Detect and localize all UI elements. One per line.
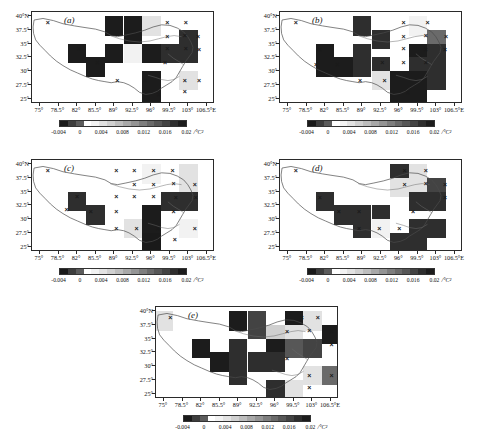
y-axis-tick-label: 35° — [1, 187, 29, 194]
colorbar-e: -0.00400.0040.0080.0120.0160.02/°C² — [183, 415, 311, 435]
significance-marker: × — [156, 224, 160, 231]
significance-marker: × — [193, 224, 197, 231]
x-axis-tick-label: 78.5° — [51, 254, 64, 261]
y-axis-tick-mark — [28, 43, 31, 44]
colorbar-tick-label: -0.004 — [299, 129, 313, 135]
colorbar-tick-label: 0.016 — [283, 424, 296, 430]
heatmap-cell — [142, 16, 161, 35]
colorbar-tick-label: 0.012 — [138, 129, 151, 135]
x-axis-tick-mark — [150, 103, 151, 106]
y-axis-tick-label: 27.5° — [1, 80, 29, 87]
y-axis-tick-label: 32.5° — [1, 201, 29, 208]
significance-marker: × — [95, 59, 99, 66]
y-axis-tick-label: 25° — [125, 389, 153, 396]
colorbar-tick-label: 0.016 — [159, 277, 172, 283]
y-axis-tick-mark — [28, 204, 31, 205]
significance-marker: × — [196, 33, 200, 40]
significance-marker: × — [307, 383, 311, 390]
x-axis-tick-label: 85.5° — [88, 254, 101, 261]
significance-marker: × — [173, 235, 177, 242]
x-axis-tick-label: 82° — [196, 401, 205, 408]
x-axis-tick-mark — [95, 103, 96, 106]
colorbar-gradient — [183, 415, 311, 422]
significance-marker: × — [184, 45, 188, 52]
significance-marker: × — [197, 77, 201, 84]
significance-marker: × — [183, 87, 187, 94]
x-axis-tick-label: 92.5° — [125, 106, 138, 113]
x-axis-tick-label: 85.5° — [336, 254, 349, 261]
x-axis-tick-mark — [306, 103, 307, 106]
y-axis-tick-mark — [152, 324, 155, 325]
heatmap-cell — [316, 57, 335, 76]
x-axis-tick-label: 99.5° — [286, 401, 299, 408]
y-axis-tick-mark — [276, 98, 279, 99]
y-axis-tick-label: 27.5° — [125, 375, 153, 382]
x-axis-tick-label: 103° — [430, 106, 442, 113]
heatmap-cell — [427, 71, 446, 90]
x-axis-tick-label: 75° — [35, 106, 44, 113]
colorbar-tick-label: -0.004 — [299, 277, 313, 283]
significance-marker: × — [357, 224, 361, 231]
significance-marker: × — [335, 61, 339, 68]
colorbar-tick-label: 0.012 — [386, 129, 399, 135]
x-axis-tick-mark — [324, 251, 325, 254]
x-axis-tick-label: 78.5° — [299, 106, 312, 113]
significance-marker: × — [337, 208, 341, 215]
y-axis-tick-label: 40°N — [249, 12, 277, 19]
x-axis-tick-label: 106.5°E — [196, 254, 216, 261]
x-axis-tick-mark — [287, 103, 288, 106]
x-axis-tick-label: 99.5° — [410, 106, 423, 113]
y-axis-tick-mark — [152, 393, 155, 394]
x-axis-tick-label: 85.5° — [336, 106, 349, 113]
x-axis-tick-label: 96° — [270, 401, 279, 408]
heatmap-cell — [372, 71, 391, 90]
x-axis-tick-label: 96° — [394, 254, 403, 261]
significance-marker: × — [46, 166, 50, 173]
x-axis-tick-label: 92.5° — [125, 254, 138, 261]
y-axis-tick-label: 25° — [1, 94, 29, 101]
x-axis-tick-label: 96° — [146, 106, 155, 113]
heatmap-cell — [179, 44, 198, 63]
significance-marker: × — [380, 59, 384, 66]
plot-area-e: ×××××××××××(e) — [155, 306, 338, 398]
x-axis-tick-label: 75° — [283, 106, 292, 113]
x-axis-tick-mark — [200, 398, 201, 401]
x-axis-tick-mark — [169, 103, 170, 106]
significance-marker: × — [143, 77, 147, 84]
significance-marker: × — [151, 166, 155, 173]
colorbar-tick-label: 0.004 — [219, 424, 232, 430]
x-axis-tick-label: 103° — [182, 106, 194, 113]
significance-marker: × — [444, 33, 448, 40]
y-axis-tick-label: 35° — [249, 39, 277, 46]
y-axis-tick-mark — [276, 204, 279, 205]
significance-marker: × — [330, 328, 334, 335]
significance-marker: × — [424, 46, 428, 53]
heatmap-cell — [124, 219, 143, 238]
heatmap-cell — [285, 380, 304, 398]
significance-marker: × — [165, 45, 169, 52]
significance-marker: × — [316, 313, 320, 320]
x-axis-tick-mark — [206, 103, 207, 106]
colorbar-tick-label: 0 — [326, 129, 329, 135]
y-axis-tick-label: 37.5° — [249, 174, 277, 181]
colorbar-tick-label: 0.008 — [116, 277, 129, 283]
x-axis-tick-mark — [113, 251, 114, 254]
plot-area-b: ××××××××××××××××××(b) — [279, 11, 462, 103]
x-axis-tick-mark — [435, 103, 436, 106]
significance-marker: × — [163, 59, 167, 66]
x-axis-tick-mark — [417, 251, 418, 254]
colorbar-tick-label: 0.02 — [306, 424, 316, 430]
y-axis-tick-label: 40°N — [1, 160, 29, 167]
y-axis-tick-label: 40°N — [249, 160, 277, 167]
colorbar-gradient — [307, 120, 435, 127]
heatmap-cell — [390, 233, 409, 251]
colorbar-tick-label: 0.02 — [430, 277, 440, 283]
y-axis-tick-mark — [276, 177, 279, 178]
y-axis-tick-label: 30° — [125, 362, 153, 369]
y-axis-tick-mark — [276, 43, 279, 44]
y-axis-tick-label: 30° — [249, 215, 277, 222]
significance-marker: × — [382, 77, 386, 84]
colorbar-tick-label: 0.02 — [182, 277, 192, 283]
colorbar-unit-label: /°C² — [194, 129, 204, 135]
x-axis-tick-mark — [150, 251, 151, 254]
